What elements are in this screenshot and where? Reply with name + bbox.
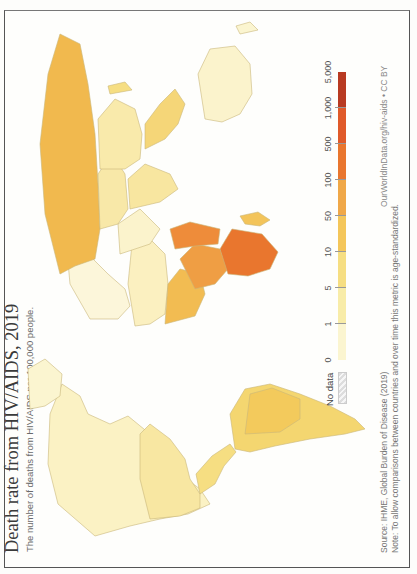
legend-tick: 5,000 bbox=[323, 61, 333, 84]
region-madagascar bbox=[240, 212, 270, 226]
legend-seg-6 bbox=[338, 108, 346, 144]
region-north-africa bbox=[128, 239, 168, 326]
region-usa bbox=[140, 424, 200, 519]
region-russia bbox=[40, 34, 100, 274]
legend-tick: 0 bbox=[323, 357, 333, 362]
region-southeast-asia bbox=[145, 89, 185, 149]
region-new-zealand bbox=[236, 22, 258, 34]
region-east-africa bbox=[170, 222, 220, 249]
legend-color-bar bbox=[338, 72, 346, 360]
region-central-america bbox=[196, 444, 236, 494]
legend-tick: 5 bbox=[323, 285, 333, 290]
note-text: Note: To allow comparisons between count… bbox=[390, 204, 401, 553]
legend-tickmark bbox=[335, 179, 346, 180]
legend-seg-0 bbox=[338, 324, 346, 360]
region-japan bbox=[108, 82, 132, 94]
legend-tickmark bbox=[335, 215, 346, 216]
legend-no-data-label: No data bbox=[324, 373, 335, 406]
color-legend: No data 0 1 5 10 50 100 500 1,000 5,000 bbox=[320, 66, 360, 406]
rotated-chart-page: Death rate from HIV/AIDS, 2019 The numbe… bbox=[0, 0, 417, 574]
legend-tickmark bbox=[335, 107, 346, 108]
region-south-asia bbox=[128, 164, 178, 209]
region-china bbox=[98, 99, 142, 169]
legend-seg-2 bbox=[338, 252, 346, 288]
legend-tick: 500 bbox=[323, 136, 333, 151]
legend-tick: 1,000 bbox=[323, 97, 333, 120]
legend-tickmark bbox=[335, 323, 346, 324]
legend-tickmark bbox=[335, 251, 346, 252]
legend-seg-4 bbox=[338, 180, 346, 216]
legend-seg-3 bbox=[338, 216, 346, 252]
legend-tickmark bbox=[335, 287, 346, 288]
source-block: Source: IHME, Global Burden of Disease (… bbox=[379, 204, 401, 553]
legend-tick: 100 bbox=[323, 172, 333, 187]
credit-link[interactable]: OurWorldInData.org/hiv-aids • CC BY bbox=[379, 66, 389, 207]
legend-seg-1 bbox=[338, 288, 346, 324]
legend-tick: 50 bbox=[323, 211, 333, 221]
region-southern-africa bbox=[220, 229, 278, 276]
legend-seg-7 bbox=[338, 72, 346, 108]
legend-seg-5 bbox=[338, 144, 346, 180]
legend-no-data-swatch bbox=[338, 372, 347, 404]
region-australia bbox=[198, 46, 252, 122]
legend-tickmark bbox=[335, 143, 346, 144]
legend-tick: 10 bbox=[323, 247, 333, 257]
source-text: Source: IHME, Global Burden of Disease (… bbox=[379, 204, 390, 553]
legend-tick: 1 bbox=[323, 321, 333, 326]
